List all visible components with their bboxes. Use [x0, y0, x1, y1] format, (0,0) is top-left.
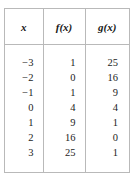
cell-fx: 1	[43, 86, 85, 101]
table-row: −2 0 16	[5, 71, 129, 86]
table-body: −3 1 25 −2 0 16 −1 1 9 0 4 4 1 9	[5, 45, 129, 173]
spacer-cell-gx	[85, 161, 129, 172]
spacer-cell-x	[5, 45, 43, 57]
cell-gx: 4	[85, 101, 129, 116]
table-row: 3 25 1	[5, 146, 129, 161]
column-header-fx: f(x)	[43, 9, 85, 45]
table-row: 0 4 4	[5, 101, 129, 116]
cell-gx: 1	[85, 146, 129, 161]
table-header: x f(x) g(x)	[5, 9, 129, 45]
cell-gx: 25	[85, 56, 129, 71]
body-bottom-spacer	[5, 161, 129, 172]
cell-fx: 16	[43, 131, 85, 146]
cell-fx: 25	[43, 146, 85, 161]
cell-fx: 1	[43, 56, 85, 71]
cell-gx: 1	[85, 116, 129, 131]
table-row: 2 16 0	[5, 131, 129, 146]
cell-x: −1	[5, 86, 43, 101]
spacer-cell-fx	[43, 45, 85, 57]
cell-x: −3	[5, 56, 43, 71]
column-header-gx: g(x)	[85, 9, 129, 45]
cell-x: −2	[5, 71, 43, 86]
header-row: x f(x) g(x)	[5, 9, 129, 45]
cell-gx: 0	[85, 131, 129, 146]
value-table-figure: x f(x) g(x) −3 1 25 −2 0 16 −1	[4, 8, 130, 173]
cell-fx: 9	[43, 116, 85, 131]
cell-x: 3	[5, 146, 43, 161]
spacer-cell-x	[5, 161, 43, 172]
cell-gx: 16	[85, 71, 129, 86]
body-top-spacer	[5, 45, 129, 57]
cell-x: 1	[5, 116, 43, 131]
table-row: −1 1 9	[5, 86, 129, 101]
table-row: 1 9 1	[5, 116, 129, 131]
table-row: −3 1 25	[5, 56, 129, 71]
column-header-x: x	[5, 9, 43, 45]
cell-x: 2	[5, 131, 43, 146]
spacer-cell-fx	[43, 161, 85, 172]
cell-x: 0	[5, 101, 43, 116]
function-value-table: x f(x) g(x) −3 1 25 −2 0 16 −1	[5, 9, 129, 172]
cell-fx: 4	[43, 101, 85, 116]
spacer-cell-gx	[85, 45, 129, 57]
cell-fx: 0	[43, 71, 85, 86]
cell-gx: 9	[85, 86, 129, 101]
